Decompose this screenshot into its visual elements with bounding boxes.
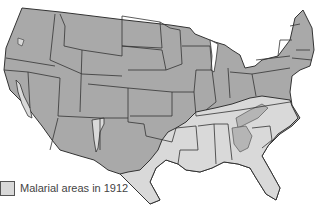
us-map — [0, 0, 324, 207]
legend-label: Malarial areas in 1912 — [20, 182, 128, 194]
legend: Malarial areas in 1912 — [0, 180, 128, 196]
legend-swatch-malarial — [0, 181, 15, 196]
